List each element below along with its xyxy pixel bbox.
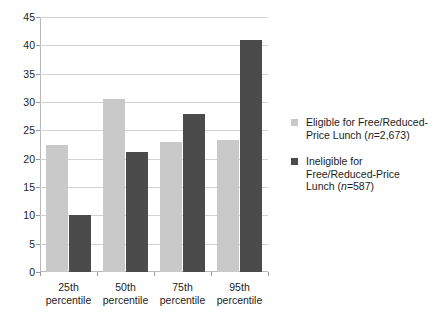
x-axis: 25thpercentile50thpercentile75thpercenti…	[40, 272, 269, 321]
bar-ineligible-3	[183, 114, 205, 272]
bar-eligible-3	[160, 142, 182, 272]
x-tick-label-2: 50thpercentile	[103, 281, 149, 306]
bar-series-container	[40, 17, 268, 272]
bar-eligible-2	[103, 99, 125, 272]
bar-eligible-1	[46, 145, 68, 273]
legend-ineligible-line3: Lunch (	[306, 180, 341, 192]
y-tick-label-30: 30	[23, 96, 35, 108]
bar-group-3	[154, 17, 211, 272]
x-tick-mark-1	[97, 272, 98, 276]
chart-legend: Eligible for Free/Reduced-Price Lunch (n…	[291, 116, 441, 207]
bar-group-1	[40, 17, 97, 272]
bar-eligible-4	[217, 140, 239, 272]
legend-label-ineligible: Ineligible forFree/Reduced-PriceLunch (n…	[306, 155, 441, 193]
x-tick-mark-3	[211, 272, 212, 276]
legend-swatch-ineligible-icon	[291, 158, 298, 165]
y-tick-label-15: 15	[23, 181, 35, 193]
legend-ineligible-line1: Ineligible for	[306, 155, 363, 167]
legend-ineligible-n-value: =587)	[347, 180, 374, 192]
legend-eligible-line1: Eligible for Free/Reduced-	[306, 116, 428, 128]
y-tick-label-25: 25	[23, 124, 35, 136]
y-tick-label-20: 20	[23, 153, 35, 165]
x-tick-label-1: 25thpercentile	[46, 281, 92, 306]
bar-ineligible-4	[240, 40, 262, 272]
x-tick-label-4: 95thpercentile	[217, 281, 263, 306]
x-tick-mark-4	[268, 272, 269, 276]
legend-item-eligible: Eligible for Free/Reduced-Price Lunch (n…	[291, 116, 441, 141]
y-tick-label-0: 0	[29, 266, 35, 278]
y-tick-label-10: 10	[23, 209, 35, 221]
legend-label-eligible: Eligible for Free/Reduced-Price Lunch (n…	[306, 116, 441, 141]
bar-group-2	[97, 17, 154, 272]
x-tick-mark-2	[154, 272, 155, 276]
x-tick-mark-0	[40, 272, 41, 276]
plot-area: 051015202530354045	[40, 17, 268, 272]
bar-ineligible-1	[69, 215, 91, 272]
y-tick-label-35: 35	[23, 68, 35, 80]
y-tick-label-40: 40	[23, 39, 35, 51]
x-tick-label-3: 75thpercentile	[160, 281, 206, 306]
y-tick-label-5: 5	[29, 238, 35, 250]
chart-title-remnant	[86, 0, 316, 6]
legend-swatch-eligible-icon	[291, 119, 298, 126]
legend-eligible-line2: Price Lunch (	[306, 129, 368, 141]
bar-ineligible-2	[126, 152, 148, 272]
y-tick-label-45: 45	[23, 11, 35, 23]
bar-group-4	[211, 17, 268, 272]
legend-ineligible-line2: Free/Reduced-Price	[306, 168, 400, 180]
legend-eligible-n-value: =2,673)	[374, 129, 410, 141]
bar-chart-figure: 051015202530354045 25thpercentile50thper…	[0, 0, 444, 321]
legend-item-ineligible: Ineligible forFree/Reduced-PriceLunch (n…	[291, 155, 441, 193]
